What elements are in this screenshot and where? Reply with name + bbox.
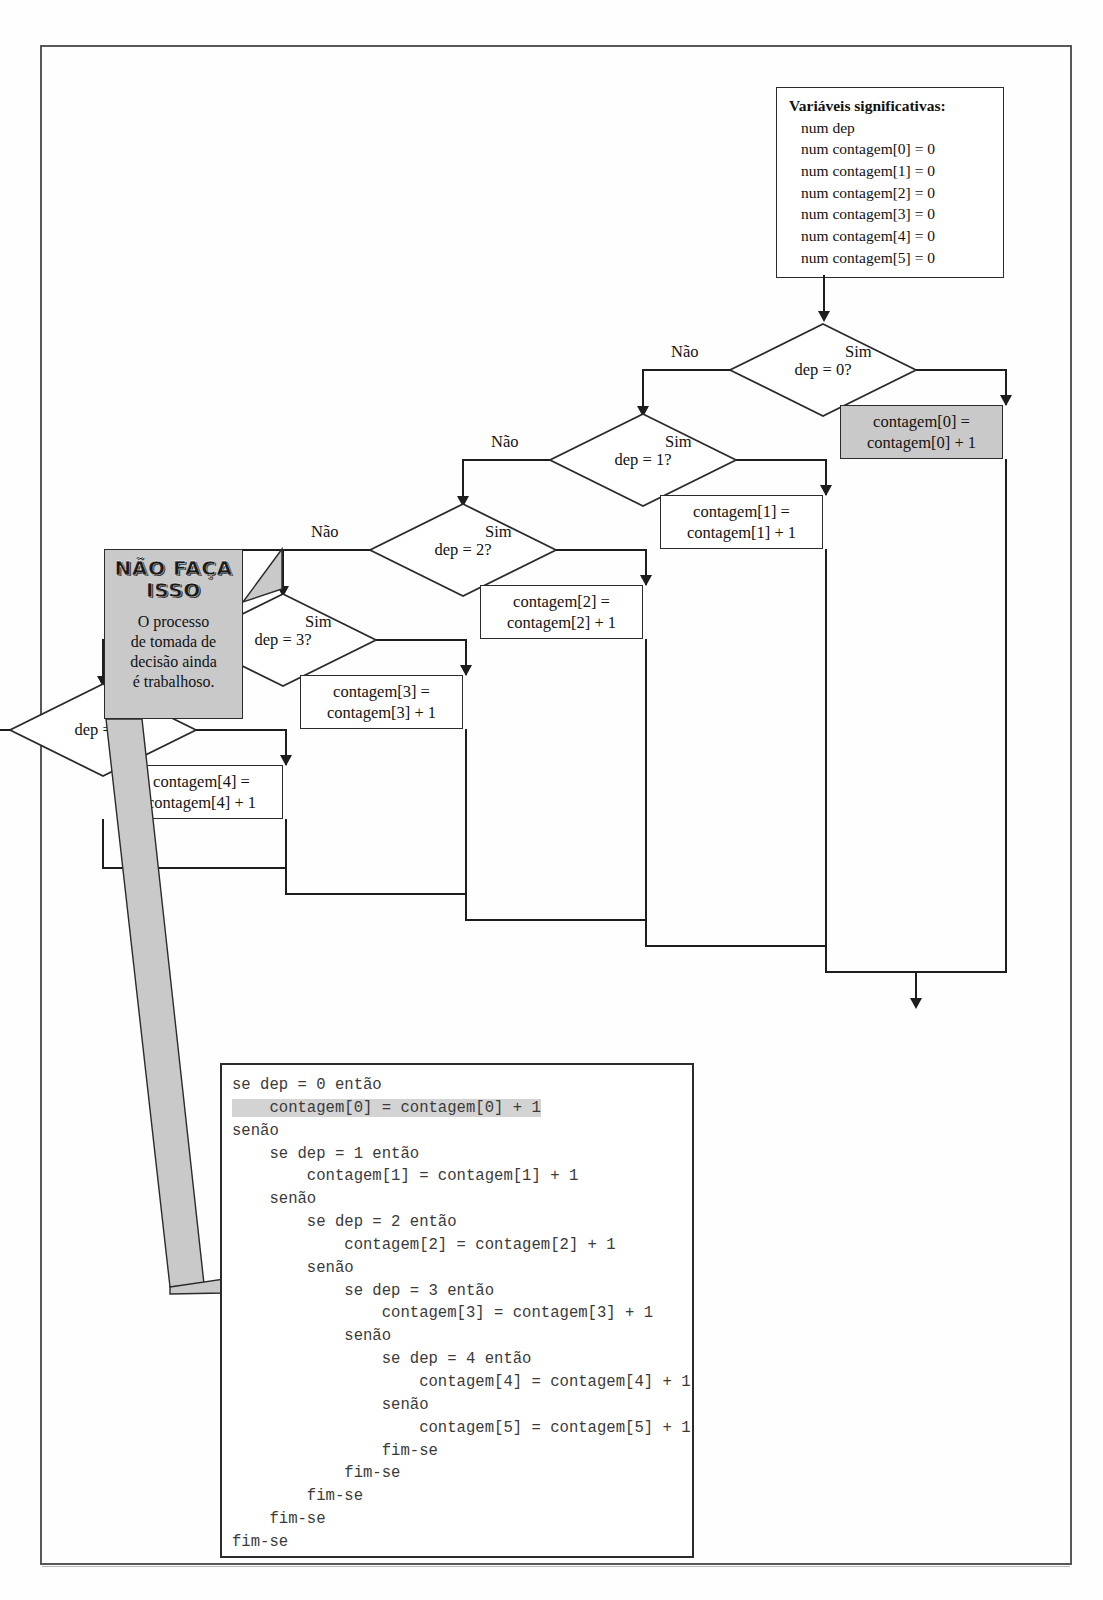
process-line-1: contagem[3] = xyxy=(333,681,430,702)
connector-no-4-h xyxy=(0,729,10,731)
connector-no-2-v xyxy=(282,549,284,591)
connector-yes-4-h xyxy=(196,729,287,731)
merge-line-c0-v xyxy=(1005,459,1007,971)
merge-line-c-v xyxy=(645,919,647,947)
process-line-2: contagem[4] + 1 xyxy=(147,792,256,813)
merge-line-c1-v xyxy=(825,549,827,945)
process-box-contagem-2: contagem[2] = contagem[2] + 1 xyxy=(480,585,643,639)
merge-line-a-h xyxy=(285,893,467,895)
arrowhead-final xyxy=(910,998,922,1009)
code-after-highlight: senão se dep = 1 então contagem[1] = con… xyxy=(232,1122,691,1551)
merge-line-d-v xyxy=(825,945,827,973)
process-line-1: contagem[1] = xyxy=(693,501,790,522)
merge-line-c4-v xyxy=(285,819,287,869)
callout-body-line-1: O processo xyxy=(105,612,242,632)
process-line-1: contagem[0] = xyxy=(873,411,970,432)
process-line-2: contagem[0] + 1 xyxy=(867,432,976,453)
connector-no-0-v xyxy=(642,369,644,411)
page-rule xyxy=(42,1566,1070,1567)
branch-label-yes-3: Sim xyxy=(305,612,332,632)
variables-line: num contagem[0] = 0 xyxy=(789,138,993,160)
connector-yes-3-h xyxy=(376,639,467,641)
pseudocode-block: se dep = 0 então contagem[0] = contagem[… xyxy=(220,1063,694,1558)
variables-line: num dep xyxy=(789,117,993,139)
callout-body-line-3: decisão ainda xyxy=(105,652,242,672)
decision-label: dep = 0? xyxy=(728,322,918,418)
process-line-1: contagem[2] = xyxy=(513,591,610,612)
merge-line-c2-v xyxy=(645,639,647,919)
connector-yes-0-h xyxy=(916,369,1007,371)
figure-frame: Variáveis significativas: num dep num co… xyxy=(40,45,1072,1565)
merge-line-c3-v xyxy=(465,729,467,893)
process-box-contagem-3: contagem[3] = contagem[3] + 1 xyxy=(300,675,463,729)
branch-label-yes-2: Sim xyxy=(485,522,512,542)
process-line-2: contagem[2] + 1 xyxy=(507,612,616,633)
merge-line-c5-h xyxy=(102,867,286,869)
branch-label-no-1: Não xyxy=(491,432,519,452)
decision-dep-2: dep = 2? xyxy=(368,502,558,598)
variables-line: num contagem[5] = 0 xyxy=(789,247,993,269)
callout-body-line-4: é trabalhoso. xyxy=(105,672,242,692)
variables-line: num contagem[4] = 0 xyxy=(789,225,993,247)
merge-line-a-v xyxy=(285,867,287,895)
connector-entry xyxy=(823,275,825,316)
variables-line: num contagem[1] = 0 xyxy=(789,160,993,182)
process-line-2: contagem[3] + 1 xyxy=(327,702,436,723)
process-box-contagem-0: contagem[0] = contagem[0] + 1 xyxy=(840,405,1003,459)
connector-yes-1-h xyxy=(736,459,827,461)
decision-dep-1: dep = 1? xyxy=(548,412,738,508)
process-box-contagem-4: contagem[4] = contagem[4] + 1 xyxy=(120,765,283,819)
variables-line: num contagem[2] = 0 xyxy=(789,182,993,204)
arrowhead-entry xyxy=(818,311,830,322)
decision-label: dep = 2? xyxy=(368,502,558,598)
process-line-2: contagem[1] + 1 xyxy=(687,522,796,543)
connector-no-1-h xyxy=(462,459,550,461)
variables-box: Variáveis significativas: num dep num co… xyxy=(776,87,1004,278)
merge-line-b-h xyxy=(465,919,647,921)
merge-line-c-h xyxy=(645,945,827,947)
connector-no-0-h xyxy=(642,369,730,371)
process-line-1: contagem[4] = xyxy=(153,771,250,792)
branch-label-no-0: Não xyxy=(671,342,699,362)
callout-title-line-2: ISSO xyxy=(105,579,242,601)
code-before-highlight: se dep = 0 então xyxy=(232,1076,382,1094)
decision-label: dep = 1? xyxy=(548,412,738,508)
code-highlighted-line: contagem[0] = contagem[0] + 1 xyxy=(232,1099,541,1117)
branch-label-no-2: Não xyxy=(311,522,339,542)
branch-label-yes-1: Sim xyxy=(665,432,692,452)
connector-no-1-v xyxy=(462,459,464,501)
callout-do-not-do-this: NÃO FAÇA ISSO O processo de tomada de de… xyxy=(104,549,243,719)
merge-line-c5-v xyxy=(102,819,104,869)
connector-yes-2-h xyxy=(556,549,647,551)
callout-body-line-2: de tomada de xyxy=(105,632,242,652)
callout-title-line-1: NÃO FAÇA xyxy=(105,557,242,579)
decision-dep-0: dep = 0? xyxy=(728,322,918,418)
variables-heading: Variáveis significativas: xyxy=(789,95,993,117)
variables-line: num contagem[3] = 0 xyxy=(789,203,993,225)
merge-line-b-v xyxy=(465,893,467,921)
branch-label-yes-0: Sim xyxy=(845,342,872,362)
figure-page: Variáveis significativas: num dep num co… xyxy=(0,0,1103,1600)
process-box-contagem-1: contagem[1] = contagem[1] + 1 xyxy=(660,495,823,549)
